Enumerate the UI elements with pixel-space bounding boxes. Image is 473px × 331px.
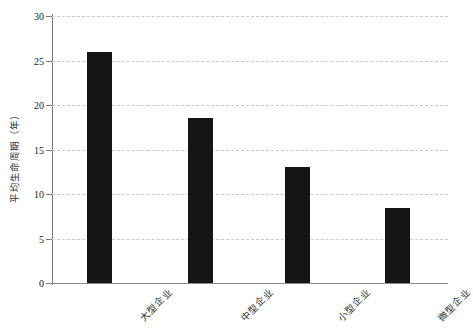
y-tick-label-20: 20 — [6, 100, 44, 111]
y-tick-label-5: 5 — [6, 233, 44, 244]
x-tick-label-medium-enterprise: 中型企业 — [237, 285, 276, 324]
x-tick-label-large-enterprise: 大型企业 — [136, 285, 175, 324]
plot-area — [52, 16, 448, 283]
y-tick-label-25: 25 — [6, 55, 44, 66]
bar-micro-enterprise — [385, 208, 410, 283]
x-axis-tick-labels: 大型企业 中型企业 小型企业 微型企业 — [52, 285, 448, 331]
bar-medium-enterprise — [188, 118, 213, 283]
y-tick-label-30: 30 — [6, 11, 44, 22]
gridline-30 — [52, 16, 448, 17]
x-tick-label-small-enterprise: 小型企业 — [334, 285, 373, 324]
y-axis-tick-labels: 30 25 20 15 10 5 0 — [0, 0, 44, 331]
y-tick-label-0: 0 — [6, 278, 44, 289]
y-tick-label-15: 15 — [6, 144, 44, 155]
bar-small-enterprise — [285, 167, 310, 283]
bar-large-enterprise — [87, 52, 112, 283]
x-axis-baseline — [52, 283, 448, 284]
x-tick-label-micro-enterprise: 微型企业 — [434, 285, 473, 324]
y-tick-label-10: 10 — [6, 189, 44, 200]
